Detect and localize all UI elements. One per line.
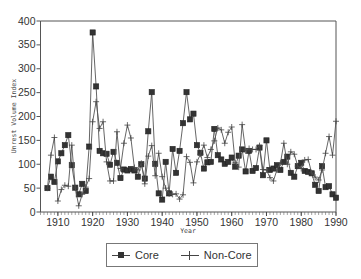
square-marker-icon bbox=[333, 195, 338, 200]
square-marker-icon bbox=[187, 117, 192, 122]
y-axis-title: Unrest Volume Index bbox=[10, 79, 18, 153]
y-tick-label: 100 bbox=[18, 158, 36, 170]
plus-marker-icon bbox=[194, 159, 200, 165]
x-tick-label: 1930 bbox=[116, 216, 140, 228]
plus-marker-icon bbox=[326, 134, 332, 140]
plus-marker-icon bbox=[128, 135, 134, 141]
plus-marker-icon bbox=[100, 119, 106, 125]
square-marker-icon bbox=[173, 170, 178, 175]
plus-marker-icon bbox=[90, 119, 96, 125]
chart-canvas: 0501001502002503003504001910192019301940… bbox=[0, 0, 361, 279]
square-marker-icon bbox=[194, 143, 199, 148]
plus-marker-icon bbox=[48, 152, 54, 158]
plus-marker-icon bbox=[208, 146, 214, 152]
plus-marker-icon bbox=[121, 140, 127, 146]
square-marker-icon bbox=[135, 174, 140, 179]
y-tick-label: 150 bbox=[18, 134, 36, 146]
x-tick-label: 1970 bbox=[255, 216, 279, 228]
x-tick-label: 1910 bbox=[46, 216, 70, 228]
plus-marker-icon bbox=[222, 140, 228, 146]
plus-marker-icon bbox=[239, 122, 245, 128]
square-marker-icon bbox=[80, 181, 85, 186]
legend-label-noncore: Non-Core bbox=[204, 249, 252, 261]
x-tick-label: 1960 bbox=[220, 216, 244, 228]
square-marker-icon bbox=[156, 191, 161, 196]
x-tick-label: 1920 bbox=[81, 216, 105, 228]
square-marker-icon bbox=[52, 179, 57, 184]
square-marker-icon bbox=[107, 162, 112, 167]
y-tick-label: 50 bbox=[24, 182, 36, 194]
plus-marker-icon bbox=[97, 125, 103, 131]
x-tick-label: 1980 bbox=[290, 216, 314, 228]
y-tick-label: 300 bbox=[18, 62, 36, 74]
square-marker-icon bbox=[180, 121, 185, 126]
x-tick-label: 1940 bbox=[150, 216, 174, 228]
plus-marker-icon bbox=[305, 156, 311, 162]
plus-marker-icon bbox=[323, 150, 329, 156]
legend-label-core: Core bbox=[135, 249, 159, 261]
square-marker-icon bbox=[160, 197, 165, 202]
y-tick-label: 250 bbox=[18, 86, 36, 98]
legend-item-core: Core bbox=[112, 249, 159, 261]
square-marker-icon bbox=[253, 165, 258, 170]
plus-marker-icon bbox=[51, 135, 57, 141]
plus-marker-icon bbox=[93, 99, 99, 105]
y-tick-label: 0 bbox=[30, 206, 36, 218]
plus-marker-icon bbox=[333, 118, 339, 124]
plus-marker-icon bbox=[173, 191, 179, 197]
x-tick-label: 1990 bbox=[324, 216, 348, 228]
plus-marker-icon bbox=[184, 154, 190, 160]
square-marker-icon bbox=[316, 188, 321, 193]
plus-marker-icon bbox=[190, 180, 196, 186]
square-marker-icon bbox=[208, 159, 213, 164]
square-marker-icon bbox=[66, 133, 71, 138]
square-marker-icon bbox=[163, 159, 168, 164]
square-marker-icon bbox=[184, 90, 189, 95]
square-marker-icon bbox=[243, 169, 248, 174]
plus-marker-icon bbox=[124, 122, 130, 128]
legend: Core Non-Core bbox=[106, 243, 258, 267]
plus-marker-icon bbox=[114, 129, 120, 135]
square-marker-icon bbox=[90, 30, 95, 35]
plus-marker-icon bbox=[187, 159, 193, 165]
plus-marker-icon bbox=[111, 178, 117, 184]
square-marker-icon bbox=[212, 126, 217, 131]
square-marker-icon bbox=[149, 90, 154, 95]
square-marker-icon bbox=[177, 148, 182, 153]
square-marker-icon bbox=[229, 155, 234, 160]
plus-marker-icon bbox=[142, 181, 148, 187]
square-marker-icon bbox=[59, 151, 64, 156]
square-marker-icon bbox=[94, 84, 99, 89]
square-marker-icon bbox=[170, 146, 175, 151]
square-marker-icon bbox=[104, 151, 109, 156]
plus-marker-icon bbox=[260, 167, 266, 173]
plot-area: 0501001502002503003504001910192019301940… bbox=[18, 15, 348, 229]
plus-marker-icon bbox=[55, 198, 61, 204]
legend-item-noncore: Non-Core bbox=[181, 249, 252, 261]
square-marker-icon bbox=[118, 175, 123, 180]
x-axis-title: Year bbox=[180, 227, 196, 235]
square-marker-icon bbox=[326, 184, 331, 189]
square-marker-icon bbox=[292, 174, 297, 179]
plus-marker-icon bbox=[330, 152, 336, 158]
plus-marker-icon bbox=[225, 129, 231, 135]
y-tick-label: 200 bbox=[18, 110, 36, 122]
y-tick-label: 400 bbox=[18, 15, 36, 27]
square-marker-icon bbox=[260, 173, 265, 178]
plus-marker-icon bbox=[76, 203, 82, 209]
square-marker-icon bbox=[62, 143, 67, 148]
y-tick-label: 350 bbox=[18, 38, 36, 50]
square-marker-icon bbox=[146, 129, 151, 134]
square-marker-icon bbox=[112, 250, 130, 260]
plus-marker-icon bbox=[281, 140, 287, 146]
square-marker-icon bbox=[264, 138, 269, 143]
square-marker-icon bbox=[201, 166, 206, 171]
square-marker-icon bbox=[313, 182, 318, 187]
square-marker-icon bbox=[191, 111, 196, 116]
plus-marker-icon bbox=[65, 183, 71, 189]
plus-marker-icon bbox=[229, 124, 235, 130]
plus-marker-icon bbox=[181, 250, 199, 260]
plus-marker-icon bbox=[156, 150, 162, 156]
plus-marker-icon bbox=[201, 142, 207, 148]
square-marker-icon bbox=[236, 153, 241, 158]
